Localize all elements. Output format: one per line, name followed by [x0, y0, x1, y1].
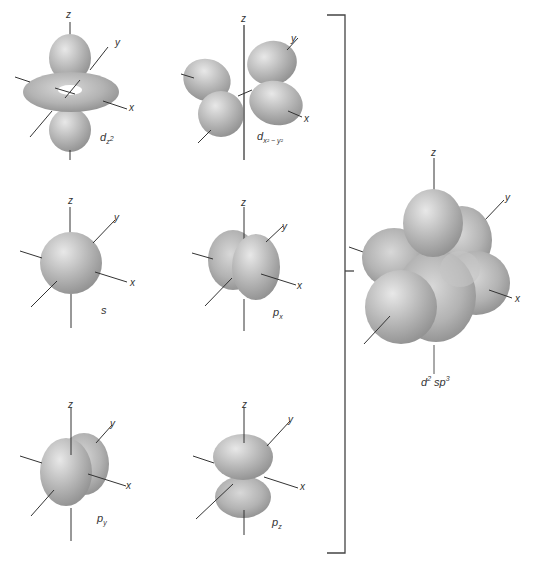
orbital-pz [193, 407, 298, 535]
axis-label-x: x [300, 482, 305, 492]
label-pz: pz [272, 517, 282, 530]
axis-label-y: y [115, 38, 120, 48]
axis-label-y: y [291, 34, 296, 44]
label-dx2-y2: dx² − y² [257, 131, 283, 144]
orbital-dx2-y2 [177, 25, 308, 160]
axis-label-y: y [282, 222, 287, 232]
axis-label-z: z [242, 400, 247, 410]
axis-label-y: y [110, 419, 115, 429]
label-dz2: dz2 [100, 132, 114, 145]
orbital-diagram [0, 0, 533, 563]
axis-label-x: x [130, 278, 135, 288]
axis-label-z: z [66, 10, 71, 20]
axis-label-x: x [515, 294, 520, 304]
axis-label-y: y [288, 415, 293, 425]
orbital-s [20, 207, 127, 328]
axis-label-z: z [68, 196, 73, 206]
axis-label-x: x [126, 481, 131, 491]
label-px: px [273, 307, 283, 320]
label-d2sp3: d2 sp3 [421, 375, 450, 388]
axis-label-y: y [114, 213, 119, 223]
axis-label-x: x [129, 103, 134, 113]
label-s: s [101, 305, 107, 316]
label-py: py [97, 513, 107, 526]
orbital-d2sp3 [349, 158, 512, 374]
axis-label-z: z [431, 148, 436, 158]
bracket [327, 15, 354, 553]
axis-label-z: z [241, 198, 246, 208]
axis-label-z: z [68, 400, 73, 410]
axis-label-x: x [304, 114, 309, 124]
axis-label-z: z [241, 14, 246, 24]
axis-label-x: x [297, 281, 302, 291]
axis-label-y: y [505, 193, 510, 203]
